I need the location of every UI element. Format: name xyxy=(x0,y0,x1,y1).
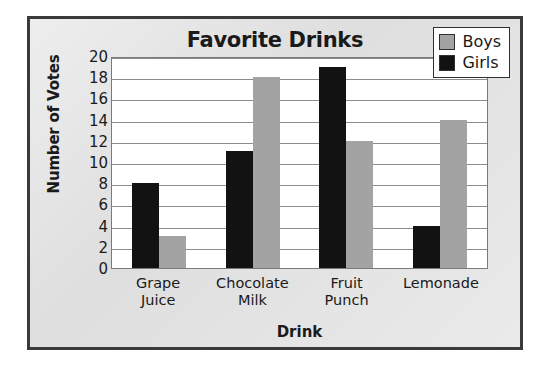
legend-item-boys[interactable]: Boys xyxy=(439,31,501,52)
y-axis-tick-label: 6 xyxy=(74,198,108,213)
x-axis-tick-label: ChocolateMilk xyxy=(205,275,299,309)
bar-boys[interactable] xyxy=(159,236,186,268)
x-axis-tick-label: GrapeJuice xyxy=(111,275,205,309)
bar-group xyxy=(206,58,300,268)
bar-group xyxy=(112,58,206,268)
y-axis-tick-label: 0 xyxy=(74,262,108,277)
bar-group xyxy=(393,58,487,268)
y-axis-tick-label: 20 xyxy=(74,50,108,65)
x-axis-tick-label: FruitPunch xyxy=(300,275,394,309)
legend-swatch-icon xyxy=(439,34,455,50)
bars-layer xyxy=(112,58,487,268)
chart-frame: Favorite Drinks Number of Votes 20181614… xyxy=(27,16,523,350)
bar-girls[interactable] xyxy=(226,151,253,268)
plot-area xyxy=(111,57,488,269)
bar-group xyxy=(300,58,394,268)
bar-boys[interactable] xyxy=(253,77,280,268)
y-axis-tick-label: 14 xyxy=(74,114,108,129)
y-axis-tick-label: 12 xyxy=(74,135,108,150)
bar-girls[interactable] xyxy=(413,226,440,268)
legend-label: Boys xyxy=(462,34,501,50)
bar-boys[interactable] xyxy=(346,141,373,268)
y-axis-tick-label: 2 xyxy=(74,241,108,256)
y-axis-tick-label: 10 xyxy=(74,156,108,171)
y-axis-tick-label: 16 xyxy=(74,92,108,107)
y-axis-tick-label: 4 xyxy=(74,220,108,235)
legend-label: Girls xyxy=(462,55,498,71)
x-axis-tick-label: Lemonade xyxy=(394,275,488,309)
x-axis-tick-labels: GrapeJuiceChocolateMilkFruitPunchLemonad… xyxy=(111,275,488,309)
legend-swatch-icon xyxy=(439,55,455,71)
bar-girls[interactable] xyxy=(319,67,346,268)
y-axis-tick-labels: 20181614121086420 xyxy=(74,57,108,269)
y-axis-tick-label: 18 xyxy=(74,71,108,86)
y-axis-title: Number of Votes xyxy=(45,54,63,194)
y-axis-tick-label: 8 xyxy=(74,177,108,192)
chart-legend: BoysGirls xyxy=(433,27,510,78)
bar-boys[interactable] xyxy=(440,120,467,268)
legend-item-girls[interactable]: Girls xyxy=(439,52,501,73)
x-axis-title: Drink xyxy=(111,323,488,341)
bar-girls[interactable] xyxy=(132,183,159,268)
